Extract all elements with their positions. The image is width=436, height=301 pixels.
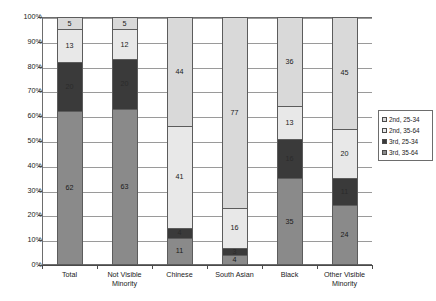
- bar-segment[interactable]: 13: [277, 106, 303, 138]
- bar-group[interactable]: 6220135: [57, 17, 83, 265]
- legend-label: 2nd, 35-64: [389, 127, 420, 134]
- x-axis-labels: TotalNot Visible MinorityChineseSouth As…: [42, 270, 372, 298]
- x-axis-category-label: Black: [262, 270, 317, 279]
- bar-segment-value: 24: [341, 231, 349, 239]
- bar-segment[interactable]: 11: [332, 178, 358, 205]
- bar-segment[interactable]: 63: [112, 109, 138, 265]
- bar-segment-value: 5: [68, 20, 72, 28]
- bar-segment-value: 62: [66, 184, 74, 192]
- bar-segment-value: 11: [341, 188, 348, 196]
- legend-swatch-icon: [382, 117, 387, 122]
- bar-segment-value: 16: [231, 224, 239, 232]
- legend-swatch-icon: [382, 150, 387, 155]
- bar-segment-value: 3: [233, 248, 237, 255]
- bar-segment[interactable]: 24: [332, 205, 358, 265]
- bar-segment[interactable]: 36: [277, 17, 303, 106]
- bar-segment-value: 36: [286, 58, 294, 66]
- chart-legend: 2nd, 25-342nd, 35-643rd, 25-343rd, 35-64: [378, 110, 433, 161]
- y-axis-tick-label: 30%: [6, 187, 42, 195]
- bar-group[interactable]: 6320125: [112, 17, 138, 265]
- y-axis-tick-label: 70%: [6, 87, 42, 95]
- legend-label: 2nd, 25-34: [389, 116, 420, 123]
- legend-swatch-icon: [382, 128, 387, 133]
- x-axis-tick-mark: [262, 265, 263, 269]
- bar-segment[interactable]: 20: [112, 59, 138, 109]
- bar-segment-value: 12: [121, 41, 129, 49]
- y-axis-tick-label: 90%: [6, 38, 42, 46]
- y-axis-tick-label: 50%: [6, 137, 42, 145]
- bar-segment[interactable]: 5: [112, 17, 138, 29]
- bar-stack: 431677: [222, 17, 248, 265]
- bar-segment-value: 4: [178, 229, 182, 237]
- bar-segment[interactable]: 20: [57, 62, 83, 112]
- bar-stack: 6220135: [57, 17, 83, 265]
- x-axis-tick-mark: [317, 265, 318, 269]
- y-axis-tick-label: 80%: [6, 63, 42, 71]
- x-axis-tick-mark: [152, 265, 153, 269]
- bar-segment[interactable]: 77: [222, 17, 248, 208]
- bar-segment[interactable]: 16: [277, 139, 303, 179]
- bar-segment[interactable]: 12: [112, 29, 138, 59]
- x-axis-category-label: Not Visible Minority: [97, 270, 152, 288]
- bar-segment[interactable]: 4: [222, 255, 248, 265]
- bar-segment-value: 63: [121, 183, 129, 191]
- bar-segment[interactable]: 11: [167, 238, 193, 265]
- bar-segment-value: 20: [66, 83, 74, 91]
- y-axis-tick-label: 20%: [6, 211, 42, 219]
- x-axis-category-label: South Asian: [207, 270, 262, 279]
- legend-label: 3rd, 25-34: [389, 138, 418, 145]
- x-axis-category-label: Chinese: [152, 270, 207, 279]
- bar-segment-value: 16: [286, 155, 294, 163]
- bar-segment-value: 20: [341, 150, 349, 158]
- bar-segment[interactable]: 4: [167, 228, 193, 238]
- legend-label: 3rd, 35-64: [389, 149, 418, 156]
- bar-segment-value: 35: [286, 218, 294, 226]
- bar-segment[interactable]: 16: [222, 208, 248, 248]
- bar-segment-value: 11: [176, 247, 183, 255]
- legend-item[interactable]: 3rd, 25-34: [382, 136, 429, 146]
- bar-segment-value: 45: [341, 69, 349, 77]
- bar-segment[interactable]: 45: [332, 17, 358, 129]
- x-axis-tick-mark: [97, 265, 98, 269]
- x-axis-tick-mark: [372, 265, 373, 269]
- bar-stack: 35161336: [277, 17, 303, 265]
- bar-segment[interactable]: 35: [277, 178, 303, 265]
- y-axis-tick-label: 40%: [6, 162, 42, 170]
- bar-segment[interactable]: 44: [167, 17, 193, 126]
- bar-group[interactable]: 1144144: [167, 17, 193, 265]
- y-axis-tick-label: 100%: [6, 13, 42, 21]
- y-axis: 0%10%20%30%40%50%60%70%80%90%100%: [0, 17, 42, 265]
- bar-segment-value: 77: [231, 109, 239, 117]
- legend-item[interactable]: 3rd, 35-64: [382, 147, 429, 157]
- y-axis-tick-label: 60%: [6, 112, 42, 120]
- bar-segment-value: 5: [123, 20, 127, 28]
- bar-segment-value: 13: [286, 119, 294, 127]
- x-axis-category-label: Total: [42, 270, 97, 279]
- x-axis-tick-mark: [42, 265, 43, 269]
- bar-segment[interactable]: 13: [57, 29, 83, 61]
- bar-group[interactable]: 431677: [222, 17, 248, 265]
- x-axis-category-label: Other Visible Minority: [317, 270, 372, 288]
- bar-segment-value: 20: [121, 80, 129, 88]
- legend-swatch-icon: [382, 139, 387, 144]
- bar-segment[interactable]: 5: [57, 17, 83, 29]
- bar-segment[interactable]: 41: [167, 126, 193, 228]
- bars-layer: 6220135632012511441444316773516133624112…: [42, 17, 372, 265]
- stacked-bar-chart: 0%10%20%30%40%50%60%70%80%90%100% 622013…: [0, 0, 436, 301]
- bar-segment[interactable]: 20: [332, 129, 358, 179]
- y-axis-tick-label: 0%: [6, 261, 42, 269]
- bar-stack: 1144144: [167, 17, 193, 265]
- legend-item[interactable]: 2nd, 25-34: [382, 114, 429, 124]
- y-axis-tick-label: 10%: [6, 236, 42, 244]
- bar-group[interactable]: 35161336: [277, 17, 303, 265]
- bar-segment[interactable]: 62: [57, 111, 83, 265]
- bar-stack: 6320125: [112, 17, 138, 265]
- x-axis-tick-mark: [207, 265, 208, 269]
- bar-group[interactable]: 24112045: [332, 17, 358, 265]
- bar-segment-value: 41: [176, 173, 184, 181]
- bar-segment-value: 4: [233, 256, 237, 264]
- bar-segment[interactable]: 3: [222, 248, 248, 255]
- bar-stack: 24112045: [332, 17, 358, 265]
- bar-segment-value: 44: [176, 68, 184, 76]
- legend-item[interactable]: 2nd, 35-64: [382, 125, 429, 135]
